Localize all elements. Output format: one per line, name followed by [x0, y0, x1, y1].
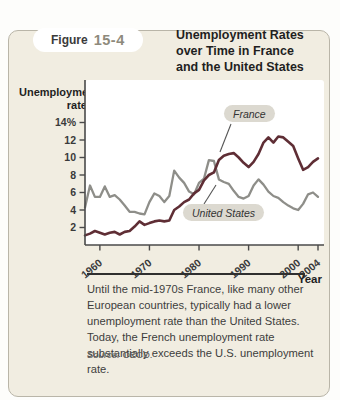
svg-text:14%: 14% [55, 116, 77, 128]
svg-text:8: 8 [70, 169, 76, 181]
svg-text:4: 4 [70, 204, 76, 216]
y-axis-ticks: 2468101214% [55, 116, 85, 233]
svg-text:1960: 1960 [79, 256, 105, 280]
figure-tab-number: 15-4 [94, 32, 125, 48]
svg-text:10: 10 [64, 151, 76, 163]
source-line: Source: OECD. [87, 349, 287, 360]
united-states-series-label: United States [183, 204, 264, 221]
svg-text:1970: 1970 [128, 256, 154, 280]
caption-text: Until the mid-1970s France, like many ot… [87, 281, 316, 377]
unemployment-line-chart: 2468101214% 196019701980199020002004 Yea… [0, 70, 340, 295]
svg-text:6: 6 [70, 186, 76, 198]
svg-text:1980: 1980 [178, 256, 204, 280]
page: { "page": { "header_fragment": "unemploy… [0, 0, 340, 400]
caption-divider-rule [87, 273, 305, 275]
svg-text:2: 2 [70, 221, 76, 233]
united-states-series-label-text: United States [192, 207, 255, 219]
svg-text:12: 12 [64, 134, 76, 146]
source-prefix: Source: [87, 349, 120, 360]
figure-title: Unemployment Rates over Time in France a… [176, 27, 336, 75]
figure-tab-word: Figure [51, 33, 88, 47]
svg-text:1990: 1990 [227, 256, 253, 280]
france-series-label: France [224, 105, 275, 122]
france-series-label-text: France [233, 108, 266, 120]
page-header-fragment: unemployment rate today. [136, 0, 336, 6]
source-text: OECD. [122, 349, 152, 360]
figure-tab: Figure 15-4 [33, 28, 143, 52]
x-axis-ticks: 196019701980199020002004 [79, 245, 323, 281]
